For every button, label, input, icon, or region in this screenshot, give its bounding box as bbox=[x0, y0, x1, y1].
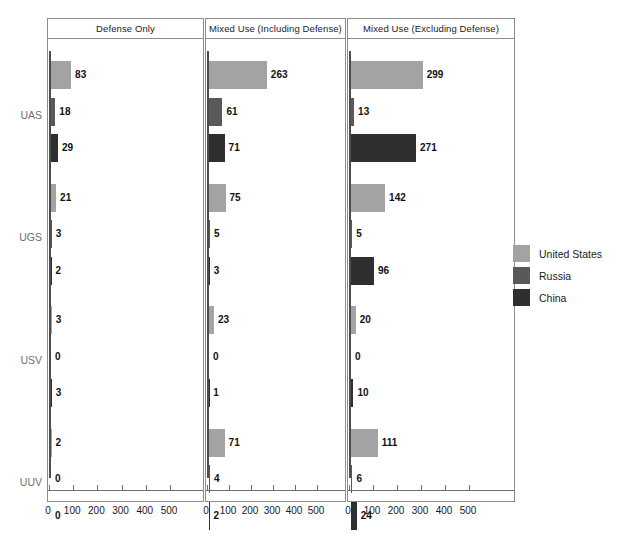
x-axis-line bbox=[348, 490, 514, 491]
bar-value-label: 18 bbox=[59, 107, 70, 117]
bar-value-label: 24 bbox=[361, 511, 372, 521]
legend-label: United States bbox=[539, 248, 602, 260]
bar-value-label: 29 bbox=[62, 143, 73, 153]
bar-row: 2 bbox=[51, 429, 61, 457]
bar-value-label: 6 bbox=[356, 474, 362, 484]
x-axis-tick bbox=[97, 485, 98, 490]
x-axis-tick bbox=[469, 485, 470, 490]
bar-value-label: 2 bbox=[55, 438, 61, 448]
bar-row: 75 bbox=[209, 184, 241, 212]
y-axis-group-label-usv: USV bbox=[20, 354, 42, 366]
bar-value-label: 5 bbox=[356, 229, 362, 239]
x-axis bbox=[206, 484, 345, 502]
bar-row: 71 bbox=[209, 429, 240, 457]
x-axis-tick bbox=[397, 485, 398, 490]
bar-row: 71 bbox=[209, 134, 240, 162]
bar-row: 13 bbox=[351, 98, 369, 126]
bar-row: 61 bbox=[209, 98, 238, 126]
y-axis-group-label-uuv: UUV bbox=[20, 476, 42, 488]
bar-value-label: 23 bbox=[218, 315, 229, 325]
bar-row: 2 bbox=[209, 502, 219, 530]
bar bbox=[351, 220, 352, 248]
bar bbox=[209, 98, 222, 126]
x-axis-tick-label: 500 bbox=[460, 505, 477, 516]
x-axis-tick-label: 300 bbox=[112, 505, 129, 516]
x-axis-tick-label: 200 bbox=[242, 505, 259, 516]
bar-row: 1 bbox=[209, 379, 219, 407]
x-axis bbox=[48, 484, 203, 502]
plot-area: 2991327114259620010111624 bbox=[348, 39, 514, 484]
bar bbox=[51, 379, 52, 407]
bar-value-label: 61 bbox=[226, 107, 237, 117]
bar-value-label: 13 bbox=[358, 107, 369, 117]
x-axis-tick bbox=[445, 485, 446, 490]
legend-item: Russia bbox=[513, 265, 625, 286]
bar bbox=[209, 134, 225, 162]
bar-row: 0 bbox=[51, 502, 61, 530]
x-axis-tick bbox=[207, 485, 208, 490]
bar-row: 0 bbox=[209, 343, 219, 371]
panel-plot-body: 8318292132303200 bbox=[47, 39, 204, 502]
bar-value-label: 142 bbox=[389, 193, 406, 203]
x-axis-tick bbox=[73, 485, 74, 490]
bar-row: 0 bbox=[51, 343, 61, 371]
bar-row: 96 bbox=[351, 257, 389, 285]
bar bbox=[51, 134, 58, 162]
bar-value-label: 3 bbox=[56, 388, 62, 398]
x-axis-tick bbox=[317, 485, 318, 490]
y-axis-group-label-ugs: UGS bbox=[19, 231, 42, 243]
x-axis-tick bbox=[295, 485, 296, 490]
bar-value-label: 21 bbox=[60, 193, 71, 203]
bar bbox=[51, 61, 71, 89]
bar-row: 2 bbox=[51, 257, 61, 285]
bar-row: 299 bbox=[351, 61, 443, 89]
bar-row: 20 bbox=[351, 306, 371, 334]
bar-value-label: 3 bbox=[214, 266, 220, 276]
legend-item: China bbox=[513, 287, 625, 308]
x-axis-tick-label: 200 bbox=[388, 505, 405, 516]
x-axis-tick-label: 300 bbox=[264, 505, 281, 516]
panel-2: Mixed Use (Including Defense)26361717553… bbox=[205, 18, 346, 502]
x-axis-line bbox=[48, 490, 203, 491]
legend-label: Russia bbox=[539, 270, 571, 282]
legend-color-swatch bbox=[513, 289, 530, 306]
bar-value-label: 0 bbox=[213, 352, 219, 362]
bar-value-label: 1 bbox=[213, 388, 219, 398]
bar-row: 3 bbox=[51, 306, 61, 334]
bar bbox=[351, 379, 353, 407]
bar-value-label: 0 bbox=[55, 352, 61, 362]
panel-1: Defense Only8318292132303200 bbox=[47, 18, 204, 502]
bar bbox=[209, 429, 225, 457]
bar-value-label: 0 bbox=[55, 474, 61, 484]
bar-value-label: 2 bbox=[213, 511, 219, 521]
bar-row: 24 bbox=[351, 502, 372, 530]
x-axis-tick bbox=[146, 485, 147, 490]
legend-color-swatch bbox=[513, 245, 530, 262]
panel-plot-body: 2991327114259620010111624 bbox=[347, 39, 515, 502]
bar-row: 3 bbox=[51, 220, 61, 248]
plot-area: 8318292132303200 bbox=[48, 39, 203, 484]
bar-value-label: 299 bbox=[427, 70, 444, 80]
bar-value-label: 0 bbox=[55, 511, 61, 521]
bar-value-label: 263 bbox=[271, 70, 288, 80]
bar-value-label: 71 bbox=[229, 143, 240, 153]
x-axis-tick bbox=[373, 485, 374, 490]
bar bbox=[209, 61, 267, 89]
bar bbox=[351, 134, 416, 162]
x-axis-tick-label: 0 bbox=[345, 505, 351, 516]
bar-row: 18 bbox=[51, 98, 70, 126]
legend-color-swatch bbox=[513, 267, 530, 284]
x-axis-tick-label: 500 bbox=[308, 505, 325, 516]
bar bbox=[351, 257, 374, 285]
x-axis-tick-label: 400 bbox=[436, 505, 453, 516]
bar-value-label: 3 bbox=[56, 229, 62, 239]
x-axis bbox=[348, 484, 514, 502]
bar bbox=[209, 306, 214, 334]
bar bbox=[209, 220, 210, 248]
bar-value-label: 83 bbox=[75, 70, 86, 80]
bar-row: 111 bbox=[351, 429, 397, 457]
bar bbox=[51, 184, 56, 212]
bar bbox=[51, 306, 52, 334]
bar bbox=[209, 257, 210, 285]
bar-value-label: 20 bbox=[360, 315, 371, 325]
